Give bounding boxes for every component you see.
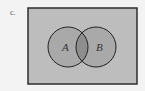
venn-diagram-figure: c. A B [0, 0, 145, 91]
set-a-label: A [61, 41, 69, 53]
set-b-label: B [96, 41, 103, 53]
venn-diagram: A B [0, 0, 145, 91]
